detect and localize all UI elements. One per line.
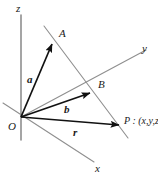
figure-canvas xyxy=(0,0,158,179)
vector-arrow-b xyxy=(21,93,90,117)
vector-arrow-a xyxy=(21,44,52,117)
axis-label-z: z xyxy=(16,3,20,14)
axis-line-y xyxy=(21,50,146,117)
vector-label-a: a xyxy=(27,74,33,85)
axis-label-y: y xyxy=(142,43,147,54)
point-label-p-coordinates: P : (x,y,z) xyxy=(124,116,158,126)
vector-label-r: r xyxy=(73,127,77,138)
point-label-a: A xyxy=(59,28,66,39)
axis-label-x: x xyxy=(95,163,100,174)
vector-label-b: b xyxy=(64,104,70,115)
point-label-b: B xyxy=(98,79,105,90)
origin-label-o: O xyxy=(8,121,16,132)
vector-geometry-figure: z y x O A B P : (x,y,z) a b r xyxy=(0,0,158,179)
line-through-a-b-p xyxy=(44,26,128,138)
axis-line-x xyxy=(3,103,94,162)
